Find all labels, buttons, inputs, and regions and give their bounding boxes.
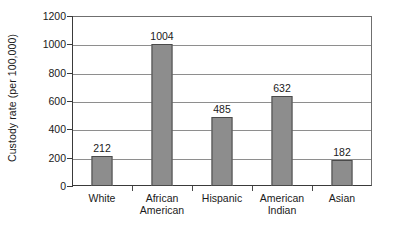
y-tick-mark xyxy=(67,186,73,187)
x-axis-category-label: AfricanAmerican xyxy=(132,192,192,216)
y-tick-label: 200 xyxy=(14,153,66,163)
bar-slot: 632 xyxy=(252,16,312,186)
x-axis-category-label: Hispanic xyxy=(192,192,252,204)
x-axis-category-label: Asian xyxy=(312,192,372,204)
x-label-line: American xyxy=(132,204,192,216)
x-label-line: White xyxy=(89,192,116,204)
x-axis-category-label: White xyxy=(72,192,132,204)
bars-group: 2121004485632182 xyxy=(72,16,372,186)
x-tick-mark xyxy=(192,186,193,191)
x-axis-category-label: AmericanIndian xyxy=(252,192,312,216)
y-tick-label: 1000 xyxy=(14,39,66,49)
bar-value-label: 485 xyxy=(213,104,231,115)
bar[interactable] xyxy=(272,96,293,186)
bar-value-label: 632 xyxy=(273,83,291,94)
bar[interactable] xyxy=(92,156,113,186)
bar[interactable] xyxy=(152,44,173,186)
bar-value-label: 212 xyxy=(93,143,111,154)
bar-slot: 1004 xyxy=(132,16,192,186)
x-label-line: Indian xyxy=(252,204,312,216)
bar-chart-figure: Custody rate (per 100,000) 0200400600800… xyxy=(0,0,393,230)
x-tick-mark xyxy=(252,186,253,191)
x-tick-mark xyxy=(312,186,313,191)
y-tick-label: 800 xyxy=(14,68,66,78)
x-label-line: Asian xyxy=(329,192,355,204)
y-tick-label: 1200 xyxy=(14,11,66,21)
bar[interactable] xyxy=(212,117,233,186)
bar[interactable] xyxy=(332,160,353,186)
bar-value-label: 1004 xyxy=(150,31,173,42)
x-label-line: American xyxy=(260,192,304,204)
bar-value-label: 182 xyxy=(333,147,351,158)
bar-slot: 182 xyxy=(312,16,372,186)
x-label-line: African xyxy=(146,192,179,204)
bar-slot: 485 xyxy=(192,16,252,186)
x-tick-mark xyxy=(132,186,133,191)
y-tick-label: 600 xyxy=(14,96,66,106)
y-tick-label: 0 xyxy=(14,181,66,191)
bar-slot: 212 xyxy=(72,16,132,186)
x-label-line: Hispanic xyxy=(202,192,242,204)
y-tick-label: 400 xyxy=(14,124,66,134)
